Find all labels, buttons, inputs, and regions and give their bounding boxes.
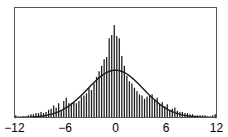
histogram-bar — [93, 83, 94, 117]
histogram-bar — [88, 88, 89, 118]
histogram-bar — [53, 105, 54, 117]
histogram-bar — [129, 81, 130, 117]
x-tick-label: 12 — [210, 121, 224, 135]
histogram-bar — [139, 94, 140, 117]
histogram-bar — [136, 91, 137, 117]
plot-frame — [15, 8, 217, 118]
histogram-bar — [131, 83, 132, 117]
x-axis-ticks: −12−60612 — [4, 121, 223, 135]
histogram-bar — [162, 102, 163, 117]
histogram-bar — [157, 98, 158, 118]
histogram-bar — [167, 104, 168, 117]
histogram-bar — [154, 100, 155, 118]
histogram-bar — [91, 90, 92, 118]
histogram-bar — [76, 103, 77, 117]
histogram-bar — [121, 56, 122, 118]
histogram-bar — [134, 88, 135, 118]
histogram-bar — [146, 97, 147, 118]
histogram-bar — [111, 35, 112, 118]
histogram-bars — [15, 25, 216, 117]
histogram-bar — [86, 93, 87, 117]
histogram-bar — [109, 38, 110, 117]
histogram-bar — [96, 77, 97, 118]
histogram-bar — [48, 110, 49, 118]
histogram-bar — [119, 38, 120, 117]
histogram-bar — [172, 109, 173, 118]
histogram-bar — [159, 104, 160, 117]
histogram-chart: −12−60612 — [0, 0, 228, 137]
histogram-bar — [106, 57, 107, 118]
normal-fit-curve — [15, 70, 217, 117]
histogram-bar — [101, 66, 102, 118]
x-tick-label: −6 — [58, 121, 72, 135]
histogram-bar — [81, 97, 82, 118]
x-tick-label: 6 — [163, 121, 170, 135]
x-tick-label: 0 — [112, 121, 119, 135]
histogram-bar — [50, 109, 51, 118]
histogram-bar — [126, 76, 127, 118]
histogram-bar — [58, 103, 59, 117]
histogram-bar — [114, 25, 115, 117]
histogram-bar — [61, 111, 62, 118]
histogram-bar — [116, 36, 117, 117]
histogram-bar — [144, 99, 145, 118]
histogram-bar — [83, 96, 84, 118]
histogram-bar — [73, 102, 74, 117]
x-tick-label: −12 — [4, 121, 25, 135]
histogram-bar — [149, 96, 150, 118]
histogram-bar — [141, 96, 142, 118]
histogram-bar — [78, 101, 79, 118]
histogram-bar — [104, 59, 105, 117]
